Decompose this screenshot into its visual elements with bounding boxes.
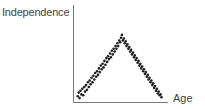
data-point (103, 60, 106, 63)
data-point (120, 36, 123, 39)
data-point (117, 45, 120, 48)
data-point (112, 48, 115, 51)
data-point (83, 86, 86, 89)
data-point (150, 79, 153, 82)
data-point (130, 49, 133, 52)
data-point (156, 88, 159, 91)
data-point (113, 50, 116, 53)
data-point (111, 53, 114, 56)
data-point (96, 70, 99, 73)
data-point (94, 72, 97, 75)
data-point (115, 48, 118, 51)
data-point (148, 76, 151, 79)
data-point (111, 49, 114, 52)
data-point (132, 51, 135, 54)
data-point (88, 86, 91, 89)
data-point (145, 71, 148, 74)
data-point (92, 75, 95, 78)
data-point (104, 63, 107, 66)
data-point (157, 90, 160, 93)
data-point (143, 68, 146, 71)
data-point (78, 97, 81, 100)
data-point (93, 78, 96, 81)
data-point (89, 83, 92, 86)
data-point (85, 84, 88, 87)
data-point (154, 85, 157, 88)
data-point (98, 67, 101, 70)
data-point (79, 89, 82, 92)
data-point (101, 62, 104, 65)
data-point (95, 76, 98, 79)
data-point (97, 74, 100, 77)
data-point (159, 93, 162, 96)
data-point (106, 61, 109, 64)
data-point (114, 45, 117, 48)
data-point (141, 65, 144, 68)
data-points (77, 34, 163, 100)
scatter-chart: Independence Age (0, 0, 205, 109)
data-point (152, 82, 155, 85)
data-point (77, 91, 80, 94)
data-point (90, 76, 93, 79)
data-point (91, 81, 94, 84)
plot-area (0, 0, 205, 109)
data-point (108, 58, 111, 61)
data-point (123, 37, 126, 40)
data-point (116, 42, 119, 45)
data-point (135, 57, 138, 60)
data-point (110, 56, 113, 59)
data-point (86, 89, 89, 92)
data-point (128, 46, 131, 49)
data-point (107, 55, 110, 58)
data-point (82, 94, 85, 97)
data-point (109, 52, 112, 55)
data-point (146, 74, 149, 77)
data-point (126, 43, 129, 46)
data-point (160, 96, 163, 99)
data-point (102, 66, 105, 69)
data-point (124, 40, 127, 43)
data-point (88, 79, 91, 82)
data-point (100, 68, 103, 71)
data-point (99, 71, 102, 74)
data-point (100, 64, 103, 67)
data-point (119, 41, 122, 44)
data-point (121, 34, 124, 37)
data-point (139, 62, 142, 65)
data-point (134, 54, 137, 57)
data-point (137, 60, 140, 63)
data-point (84, 90, 87, 93)
